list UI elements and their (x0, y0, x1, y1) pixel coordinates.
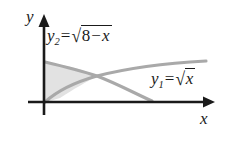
curve-y2-radicand-variable: x (102, 26, 110, 45)
curve-y1-label: y1=√x (151, 68, 195, 91)
curve-y1-label-equals: = (164, 69, 176, 88)
y-axis-label: y (26, 8, 34, 25)
x-axis-label: x (200, 110, 208, 127)
curve-y1-label-variable: y (151, 69, 159, 88)
math-figure: y x y2=√8−x y1=√x (0, 0, 233, 142)
curve-y2-label: y2=√8−x (47, 25, 112, 48)
curve-y2-radicand: 8−x (81, 25, 112, 44)
curve-y1-radical: √x (175, 68, 195, 87)
curve-y2-radical: √8−x (71, 25, 111, 44)
curve-y2-label-equals: = (60, 26, 72, 45)
curve-y2-label-variable: y (47, 26, 55, 45)
graph-canvas (0, 0, 233, 142)
x-axis-arrowhead (203, 97, 215, 108)
curve-y1-radicand: x (185, 68, 196, 87)
curve-y2-radicand-operator: − (90, 26, 102, 45)
